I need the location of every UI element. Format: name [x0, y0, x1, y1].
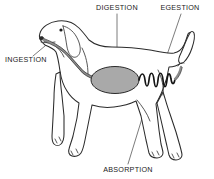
- diagram-canvas: INGESTION DIGESTION EGESTION ABSORPTION: [0, 0, 214, 179]
- label-egestion: EGESTION: [160, 3, 199, 12]
- dog-front-far-leg: [52, 72, 64, 146]
- label-absorption: ABSORPTION: [103, 165, 153, 174]
- stomach: [91, 67, 139, 94]
- label-digestion: DIGESTION: [96, 3, 138, 12]
- dog-digestion-diagram: INGESTION DIGESTION EGESTION ABSORPTION: [0, 0, 214, 179]
- leader-line-egestion: [167, 14, 181, 55]
- dog-eye: [59, 28, 62, 31]
- dog-tail: [179, 32, 195, 64]
- label-ingestion: INGESTION: [5, 55, 47, 64]
